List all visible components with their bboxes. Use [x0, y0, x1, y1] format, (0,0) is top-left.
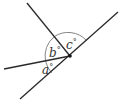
- left-ray: [4, 56, 70, 69]
- angle-diagram: a° b° c°: [0, 0, 120, 105]
- vertex-point: [68, 54, 72, 58]
- angle-label-a: a°: [42, 62, 53, 77]
